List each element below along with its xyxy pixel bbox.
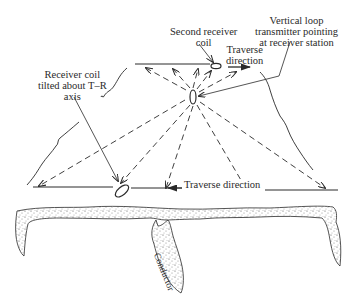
left-lower-terrain-outline — [27, 122, 79, 185]
transmitter-coil-icon — [190, 90, 196, 104]
receiver-tilted-leader — [74, 97, 118, 181]
upper-traverse-label: Traverse direction — [226, 44, 263, 66]
receiver-tilted-label: Receiver coil tilted about T–R axis — [38, 69, 107, 102]
second-receiver-coil-icon — [211, 63, 221, 68]
transmitter-label: Vertical loop transmitter pointing at re… — [255, 15, 338, 48]
right-terrain-outline — [260, 72, 313, 170]
tilted-receiver-coil-icon — [113, 183, 130, 199]
lower-traverse-label: Traverse direction — [182, 179, 262, 190]
